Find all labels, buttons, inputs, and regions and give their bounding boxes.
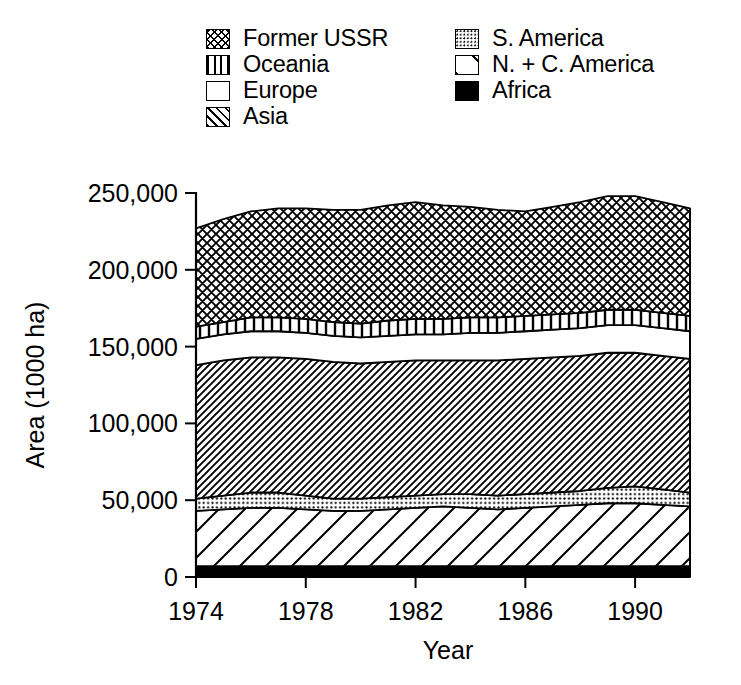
y-tick-label-5: 250,000 (88, 179, 178, 207)
x-axis-title: Year (423, 636, 474, 664)
y-tick-label-2: 100,000 (88, 409, 178, 437)
plot-area-wrapper: 050,000100,000150,000200,000250,00019741… (0, 0, 741, 685)
y-tick-label-3: 150,000 (88, 333, 178, 361)
y-tick-label-0: 0 (164, 563, 178, 591)
y-axis-title: Area (1000 ha) (21, 302, 49, 469)
x-tick-label-4: 1990 (607, 597, 663, 625)
stacked-area-chart-figure: Former USSR Oceania Europe Asia S. Ameri… (0, 0, 741, 685)
area-band-asia (196, 353, 690, 499)
x-tick-label-1: 1978 (278, 597, 334, 625)
x-tick-label-2: 1982 (388, 597, 444, 625)
x-tick-label-3: 1986 (498, 597, 554, 625)
y-tick-label-1: 50,000 (102, 486, 178, 514)
area-band-africa (196, 566, 690, 577)
y-tick-label-4: 200,000 (88, 256, 178, 284)
chart-svg: 050,000100,000150,000200,000250,00019741… (0, 0, 741, 685)
stacked-bands-group (196, 196, 690, 577)
area-band-former-ussr (196, 196, 690, 327)
area-band-n-c-america (196, 503, 690, 566)
x-tick-label-0: 1974 (168, 597, 224, 625)
